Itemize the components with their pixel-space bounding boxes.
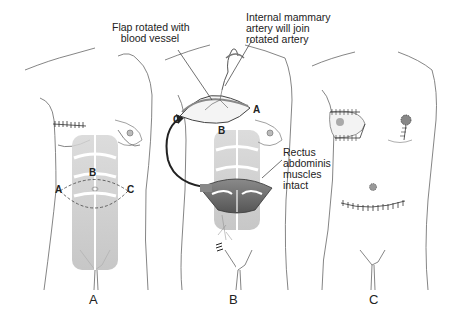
figure-a-point-c: C (127, 184, 134, 195)
figure-b-point-a: A (253, 104, 260, 115)
figure-a-point-b: B (89, 167, 96, 178)
illustration (0, 0, 458, 324)
tram-flap-diagram: Flap rotated with blood vessel Internal … (0, 0, 458, 324)
figure-b-rotation-arrow (167, 114, 213, 192)
figure-c-reconstructed-breast (330, 109, 365, 141)
figure-c-nipple-scar (388, 115, 412, 143)
figure-b-flap (180, 90, 250, 123)
panel-label-b: B (229, 292, 238, 307)
panel-label-c: C (369, 292, 378, 307)
figure-b-artery (222, 49, 244, 90)
figure-b-stitches (216, 243, 223, 251)
figure-b-point-c: C (173, 114, 180, 125)
figure-a-point-a: A (55, 184, 62, 195)
figure-a-scar (53, 121, 86, 128)
callout-flap-rotated: Flap rotated with blood vessel (112, 22, 190, 44)
figure-c-umbilicus (370, 184, 377, 191)
callout-internal-mammary-artery: Internal mammary artery will join rotate… (246, 12, 331, 45)
figure-a-breast (115, 120, 142, 146)
figure-c-abdominal-scar (341, 200, 405, 211)
panel-label-a: A (89, 292, 98, 307)
callout-rectus-abdominis: Rectus abdominis muscles intact (283, 147, 331, 191)
figure-b-point-b: B (218, 125, 225, 136)
figure-a-muscles (72, 135, 118, 270)
